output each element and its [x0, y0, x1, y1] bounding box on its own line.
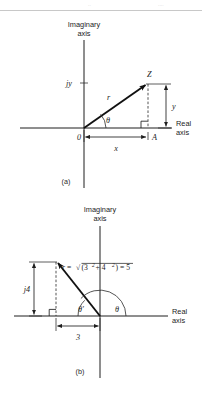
panel-a-right-angle-marker: [141, 121, 148, 128]
panel-a-y-dimension-label: y: [171, 102, 176, 111]
argand-diagram-figure: .. .... Imaginary axis Real axis jy r: [0, 0, 202, 394]
panel-b-formula-plus: + 4: [96, 263, 106, 272]
panel-b: Imaginary axis Real axis r = √ (3 2 + 4 …: [14, 205, 188, 378]
panel-a-x-dimension-label: x: [113, 144, 118, 153]
panel-a-caption: (a): [62, 177, 71, 186]
panel-b-imag-dimension-label: j4: [23, 285, 30, 294]
panel-b-angle-theta-prime-label: θ′: [78, 305, 84, 314]
panel-a-point-label: Z: [147, 70, 152, 79]
panel-b-real-axis-label-line2: axis: [172, 316, 185, 325]
panel-b-angle-theta-arc: [81, 290, 126, 316]
panel-b-imaginary-axis-label-line2: axis: [93, 214, 106, 223]
panel-a-angle-label: θ: [106, 116, 110, 125]
panel-a-imaginary-tick-label: jy: [65, 79, 72, 88]
panel-a-vector-r: [84, 85, 146, 128]
panel-a-modulus-label: r: [107, 93, 111, 102]
panel-a-imaginary-axis-label-line1: Imaginary: [68, 20, 101, 29]
panel-b-formula-radical: √: [76, 263, 81, 272]
panel-b-angle-theta-label: θ: [115, 305, 119, 314]
panel-a-foot-label: A: [151, 133, 158, 142]
panel-b-formula-open: (3: [82, 263, 89, 272]
panel-b-caption: (b): [76, 367, 85, 376]
panel-b-real-axis-label-line1: Real: [172, 307, 188, 316]
panel-a-real-axis-label-line1: Real: [176, 119, 192, 128]
ghost-text-left: ..: [88, 1, 91, 7]
panel-b-right-angle-marker: [49, 309, 56, 316]
panel-b-formula-equals-2: = 5: [120, 263, 130, 272]
panel-b-modulus-formula: r = √ (3 2 + 4 2 ) = 5: [62, 262, 133, 273]
panel-b-formula-close: ): [116, 263, 119, 272]
panel-a-imaginary-axis-label-line2: axis: [77, 29, 90, 38]
top-rule-group: .. ....: [0, 1, 202, 11]
panel-b-imaginary-axis-label-line1: Imaginary: [84, 205, 117, 214]
panel-b-formula-lhs: r: [62, 263, 65, 272]
panel-a-real-axis-label-line2: axis: [176, 128, 189, 137]
ghost-text-right: ....: [158, 1, 164, 7]
panel-a-origin-label: 0: [77, 133, 81, 142]
figure-root: .. .... Imaginary axis Real axis jy r: [0, 0, 202, 394]
panel-a: Imaginary axis Real axis jy r θ Z: [20, 20, 192, 188]
panel-b-real-dimension-label: 3: [75, 333, 80, 342]
panel-b-formula-equals-1: =: [67, 263, 71, 272]
